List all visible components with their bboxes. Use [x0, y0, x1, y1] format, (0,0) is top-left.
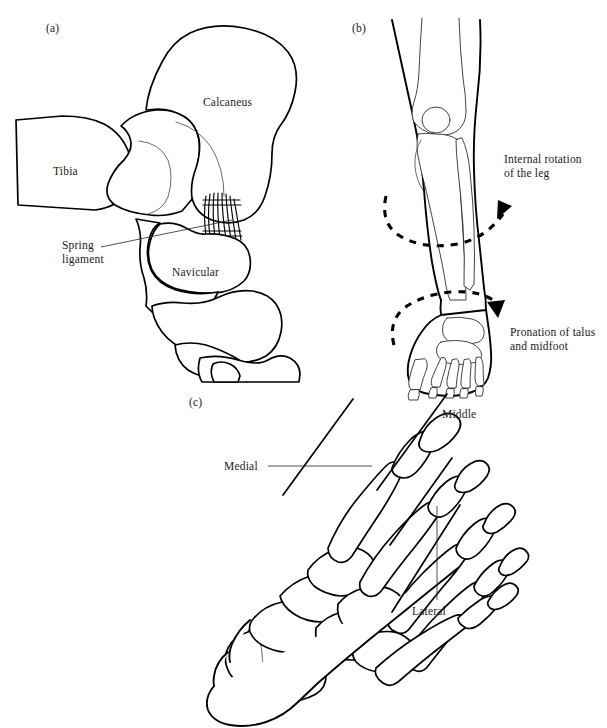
- label-calcaneus: Calcaneus: [203, 95, 252, 109]
- patella-bone: [422, 107, 450, 133]
- c-medial-column-line-upper: [283, 399, 353, 495]
- label-middle: Middle: [442, 407, 476, 421]
- label-internal-rotation-line2: of the leg: [504, 167, 549, 179]
- label-lateral: Lateral: [412, 604, 446, 618]
- label-pronation-line2: and midfoot: [510, 340, 568, 352]
- leg-outline-right: [474, 20, 484, 288]
- panel-b-graphics: [385, 18, 512, 400]
- pronation-arrowhead: [487, 300, 505, 318]
- c-phalanx-2-distal: [455, 461, 490, 493]
- panel-b-tag: (b): [352, 21, 366, 35]
- ankle-left-edge: [441, 300, 442, 315]
- label-internal-rotation: Internal rotationof the leg: [504, 152, 582, 181]
- c-phalanx-4-distal: [499, 548, 529, 575]
- label-navicular: Navicular: [172, 265, 219, 279]
- label-spring-ligament: Springligament: [62, 238, 104, 267]
- label-medial: Medial: [224, 459, 258, 473]
- label-pronation: Pronation of talusand midfoot: [510, 325, 595, 354]
- panel-c-tag: (c): [189, 395, 202, 409]
- internal-rotation-arrowhead: [497, 200, 512, 219]
- label-pronation-line1: Pronation of talus: [510, 326, 595, 338]
- foot-hallux-distal: [408, 390, 419, 400]
- c-phalanx-3-distal: [483, 504, 515, 534]
- panel-a-graphics: [16, 26, 300, 382]
- panel-c-graphics: [207, 394, 529, 726]
- label-internal-rotation-line1: Internal rotation: [504, 153, 582, 165]
- figure-canvas: [0, 0, 607, 728]
- ankle-right-edge: [484, 288, 486, 310]
- label-tibia: Tibia: [53, 164, 78, 178]
- panel-a-tag: (a): [46, 21, 59, 35]
- label-spring-ligament-line1: Spring: [62, 239, 94, 251]
- anatomy-figure: (a) (b) (c) Tibia Calcaneus Navicular Sp…: [0, 0, 607, 728]
- label-spring-ligament-line2: ligament: [62, 253, 104, 265]
